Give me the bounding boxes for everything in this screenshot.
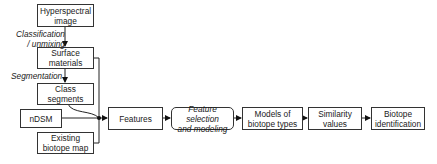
node-class-segments: Class segments <box>37 83 94 105</box>
node-similarity-values: Similarity values <box>308 107 362 130</box>
junction-dot <box>97 116 101 120</box>
node-ndsm: nDSM <box>20 109 62 128</box>
node-surface-materials: Surface materials <box>37 47 94 69</box>
node-models-biotope-types: Models of biotope types <box>242 107 303 130</box>
edge-label-classification: Classification / unmixing <box>13 29 65 49</box>
node-features: Features <box>108 107 163 130</box>
node-biotope-identification: Biotope identification <box>371 107 425 130</box>
edge-label-segmentation: Segmentation <box>11 71 62 81</box>
node-existing-biotope-map: Existing biotope map <box>37 132 94 154</box>
node-hyperspectral-image: Hyperspectral image <box>37 4 94 27</box>
node-feature-selection-modeling: Feature selection and modeling <box>171 107 234 130</box>
